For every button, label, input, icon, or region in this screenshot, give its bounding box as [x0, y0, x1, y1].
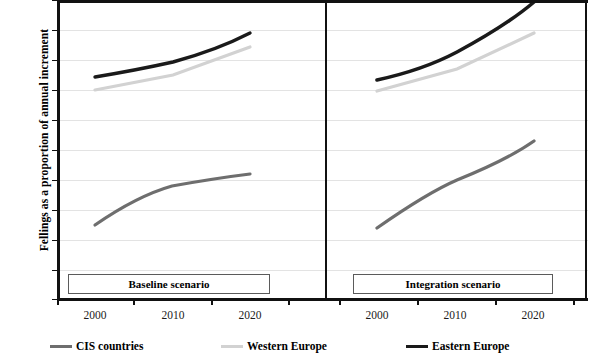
x-tick-mark-right-0 — [339, 298, 341, 305]
scenario-caption-baseline: Baseline scenario — [68, 274, 270, 294]
legend-swatch-western-icon — [221, 345, 243, 348]
legend-item-western: Western Europe — [221, 340, 327, 352]
legend-swatch-eastern-icon — [406, 345, 428, 348]
series-line-cis-baseline — [95, 174, 250, 225]
y-axis-line — [57, 0, 60, 301]
panel-divider — [325, 0, 327, 301]
scenario-caption-integration: Integration scenario — [353, 274, 553, 294]
x-tick-label-left-2010: 2010 — [143, 309, 203, 321]
chart-legend: CIS countries Western Europe Eastern Eur… — [0, 340, 602, 362]
x-tick-mark-right-3 — [573, 298, 575, 305]
x-tick-label-left-2000: 2000 — [65, 309, 125, 321]
x-axis-line — [57, 298, 588, 301]
legend-item-eastern: Eastern Europe — [406, 340, 509, 352]
x-tick-label-right-2010: 2010 — [425, 309, 485, 321]
series-layer — [57, 0, 588, 301]
x-tick-label-right-2020: 2020 — [503, 309, 563, 321]
x-tick-mark-left-0 — [57, 298, 59, 305]
right-frame-line — [585, 0, 587, 301]
chart-figure: Fellings as a proportion of annual incre… — [0, 0, 602, 364]
y-axis-title: Fellings as a proportion of annual incre… — [38, 10, 50, 270]
x-tick-mark-right-1 — [417, 298, 419, 305]
series-line-western-baseline — [95, 47, 250, 90]
legend-label-cis: CIS countries — [76, 340, 143, 352]
plot-area: 100% 90% 80% 70% 60% 50% 40% 30% 20% 10%… — [57, 0, 588, 301]
legend-label-western: Western Europe — [247, 340, 327, 352]
legend-label-eastern: Eastern Europe — [432, 340, 509, 352]
x-tick-mark-right-2 — [495, 298, 497, 305]
legend-swatch-cis-icon — [50, 345, 72, 348]
x-tick-label-right-2000: 2000 — [347, 309, 407, 321]
x-tick-mark-left-1 — [133, 298, 135, 305]
x-tick-label-left-2020: 2020 — [220, 309, 280, 321]
x-tick-mark-left-3 — [288, 298, 290, 305]
series-line-cis-integration — [377, 141, 534, 228]
x-tick-mark-left-2 — [211, 298, 213, 305]
legend-item-cis: CIS countries — [50, 340, 143, 352]
series-line-western-integration — [377, 33, 534, 91]
top-frame-line — [57, 0, 588, 3]
